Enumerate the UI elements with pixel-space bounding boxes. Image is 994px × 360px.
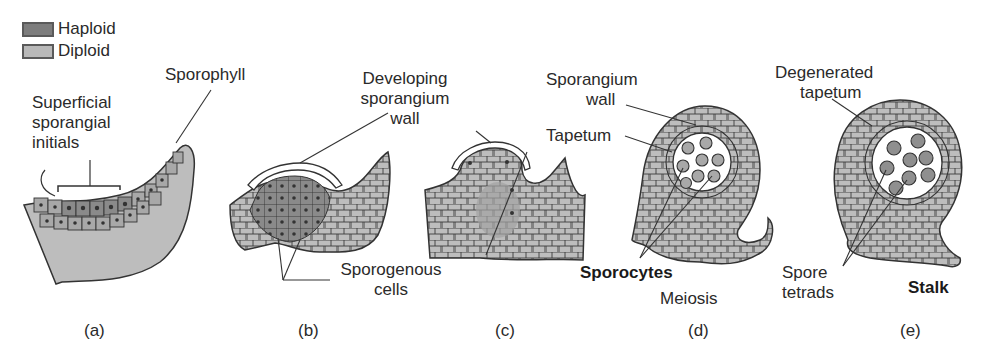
- label-tapetum: Tapetum: [546, 126, 611, 146]
- panel-d-sporangium: [625, 105, 773, 264]
- caption-a: (a): [84, 321, 105, 341]
- label-spore-tetrads: Spore tetrads: [782, 263, 834, 303]
- caption-c: (c): [495, 321, 515, 341]
- label-line: cells: [321, 280, 461, 300]
- legend-label: Haploid: [58, 19, 116, 39]
- legend-item-diploid: Diploid: [22, 40, 116, 62]
- label-line: sporangium: [350, 89, 460, 109]
- diploid-swatch: [22, 44, 54, 59]
- label-sporophyll: Sporophyll: [165, 65, 245, 85]
- label-developing-sporangium-wall: Developing sporangium wall: [350, 69, 460, 129]
- label-line: tapetum: [775, 83, 873, 103]
- caption-e: (e): [900, 321, 921, 341]
- haploid-swatch: [22, 22, 54, 37]
- label-meiosis: Meiosis: [660, 289, 718, 309]
- label-sporangium-wall: Sporangium wall: [546, 70, 638, 110]
- panel-c-sporangium: [425, 131, 585, 260]
- label-superficial-sporangial-initials: Superficial sporangial initials: [32, 93, 111, 153]
- label-line: wall: [350, 109, 460, 129]
- label-sporogenous-cells: Sporogenous cells: [321, 260, 461, 300]
- label-line: Degenerated: [775, 63, 873, 83]
- label-line: Developing: [350, 69, 460, 89]
- label-line: Sporogenous: [321, 260, 461, 280]
- sporangium-development-diagram: [0, 0, 994, 360]
- label-line: sporangial: [32, 113, 111, 133]
- caption-d: (d): [688, 321, 709, 341]
- label-line: wall: [546, 90, 638, 110]
- label-sporocytes: Sporocytes: [580, 263, 673, 283]
- legend-label: Diploid: [58, 41, 110, 61]
- label-line: Sporangium: [546, 70, 638, 90]
- label-stalk: Stalk: [908, 278, 949, 298]
- caption-b: (b): [298, 321, 319, 341]
- label-line: initials: [32, 133, 111, 153]
- label-line: Spore: [782, 263, 834, 283]
- panel-e-sporangium: [832, 99, 962, 267]
- legend: Haploid Diploid: [22, 18, 116, 62]
- panel-b-sporangium: [230, 113, 390, 280]
- label-line: Superficial: [32, 93, 111, 113]
- legend-item-haploid: Haploid: [22, 18, 116, 40]
- label-degenerated-tapetum: Degenerated tapetum: [775, 63, 873, 103]
- label-line: tetrads: [782, 283, 834, 303]
